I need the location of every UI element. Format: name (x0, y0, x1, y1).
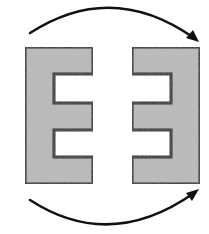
top-curved-arrow (30, 8, 194, 38)
bottom-arrowhead-icon (186, 189, 199, 201)
flip-diagram (0, 0, 209, 234)
left-e-shape (25, 47, 93, 184)
right-e-shape (132, 47, 200, 184)
bottom-curved-arrow (30, 193, 194, 224)
top-arrowhead-icon (186, 30, 199, 42)
